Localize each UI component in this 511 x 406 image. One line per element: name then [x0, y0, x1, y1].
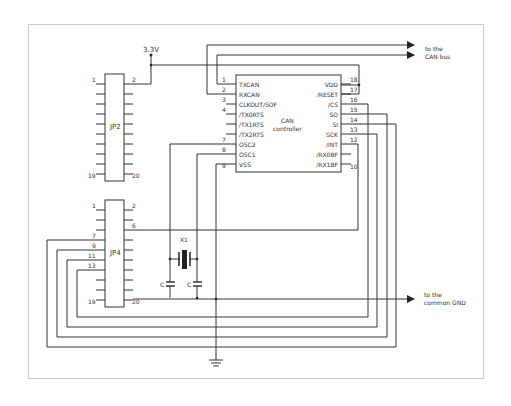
- jp4-pin-13: 13: [88, 262, 96, 269]
- ic-pin-txcan: TXCAN: [238, 81, 259, 88]
- jp2-pin-19: 19: [88, 172, 96, 179]
- ic-pin-int: /INT: [326, 141, 338, 148]
- ic-num-1: 1: [222, 76, 226, 83]
- schematic: 3.3V JP2 1 2 19 20 JP4 1 2 6 7 9 11 13 1…: [0, 0, 511, 406]
- ic-num-9: 9: [222, 162, 226, 169]
- ic-pin-rx1bf: /RX1BF: [316, 161, 338, 168]
- ic-num-18: 18: [350, 76, 358, 83]
- ic-pin-vss: VSS: [239, 161, 251, 168]
- ic-subtitle: controller: [273, 125, 302, 132]
- ic-pin-reset: /RESET: [317, 91, 339, 98]
- ic-num-10: 10: [350, 163, 358, 170]
- ic-pin-osc1: OSC1: [239, 151, 256, 158]
- ic-pin-tx0rts: /TX0RTS: [239, 111, 264, 118]
- jp4-label: JP4: [109, 249, 121, 257]
- jp4-pin-9: 9: [92, 242, 96, 249]
- ic-pin-vdd: VDD: [325, 81, 339, 88]
- jp2-pin-2: 2: [132, 76, 136, 83]
- jp4-pin-19: 19: [88, 298, 96, 305]
- ic-pin-tx2rts: /TX2RTS: [239, 131, 264, 138]
- ic-num-12: 12: [350, 136, 358, 143]
- jp4-pin-11: 11: [88, 252, 96, 259]
- can-bus-label-2: CAN bus: [425, 53, 450, 60]
- jp4-pin-2: 2: [132, 202, 136, 209]
- jp4-header: JP4 1 2 6 7 9 11 13 19 20: [88, 200, 140, 307]
- ic-pin-rxcan: RXCAN: [239, 91, 260, 98]
- ic-num-3: 3: [222, 96, 226, 103]
- ic-num-2: 2: [222, 86, 226, 93]
- ic-pin-so: SO: [329, 111, 338, 118]
- power-label: 3.3V: [143, 46, 159, 54]
- ic-pin-rx0bf: /RX0BF: [316, 151, 338, 158]
- ground-icon: [209, 360, 223, 366]
- ic-num-16: 16: [350, 96, 358, 103]
- crystal-icon: [182, 250, 187, 269]
- jp2-pin-1: 1: [92, 76, 96, 83]
- ic-num-15: 15: [350, 106, 358, 113]
- ic-num-4: 4: [222, 106, 226, 113]
- jp2-header: JP2 1 2 19 20: [88, 74, 140, 181]
- ic-pin-cs: /CS: [328, 101, 338, 108]
- jp4-pin-7: 7: [92, 232, 96, 239]
- jp2-pin-20: 20: [132, 172, 140, 179]
- jp4-pin-1: 1: [92, 202, 96, 209]
- ic-pin-si: SI: [332, 121, 338, 128]
- ic-num-14: 14: [350, 116, 358, 123]
- crystal-label: X1: [180, 236, 188, 243]
- capacitor-2-label: C: [187, 281, 191, 288]
- ic-pin-clkout: CLKOUT/SOF: [239, 101, 277, 108]
- ic-num-8: 8: [222, 146, 226, 153]
- jp4-pin-6: 6: [132, 222, 136, 229]
- ic-title: CAN: [281, 117, 294, 124]
- gnd-label-2: common GND: [424, 299, 466, 306]
- ic-num-13: 13: [350, 126, 358, 133]
- ic-num-17: 17: [350, 86, 358, 93]
- ic-num-7: 7: [222, 136, 226, 143]
- ic-pin-osc2: OSC2: [239, 141, 256, 148]
- can-bus-label-1: to the: [425, 45, 443, 52]
- capacitor-1-label: C: [160, 281, 164, 288]
- gnd-label-1: to the: [424, 291, 442, 298]
- ic-pin-tx1rts: /TX1RTS: [239, 121, 264, 128]
- jp2-label: JP2: [109, 123, 121, 131]
- ic-pin-sck: SCK: [326, 131, 339, 138]
- can-controller-ic: CAN controller TXCAN RXCAN CLKOUT/SOF /T…: [222, 75, 358, 172]
